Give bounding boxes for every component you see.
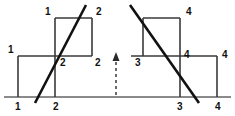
left-staircase-group — [18, 5, 92, 103]
label-right-mid-3: 3 — [135, 58, 141, 68]
label-right-mid-4a: 4 — [184, 50, 190, 60]
label-right-mid-4b: 4 — [222, 50, 228, 60]
dashed-up-arrow-icon — [113, 52, 120, 95]
label-right-base-4: 4 — [215, 102, 221, 112]
label-left-mid-2b: 2 — [95, 58, 101, 68]
label-left-base-2: 2 — [53, 102, 59, 112]
label-left-mid-1: 1 — [8, 45, 14, 55]
left-diagonal-line — [35, 5, 86, 103]
label-right-base-3: 3 — [177, 102, 183, 112]
label-left-mid-2a: 2 — [60, 58, 66, 68]
right-staircase-group — [130, 5, 217, 103]
label-left-top-2: 2 — [96, 7, 102, 17]
label-left-top-1: 1 — [45, 7, 51, 17]
dashed-arrow-head — [113, 52, 120, 61]
label-left-base-1: 1 — [15, 102, 21, 112]
label-right-top-4: 4 — [186, 7, 192, 17]
step-function-diagram: 1 2 1 2 2 1 2 4 3 4 4 3 4 — [0, 0, 235, 116]
diagram-canvas — [0, 0, 235, 116]
